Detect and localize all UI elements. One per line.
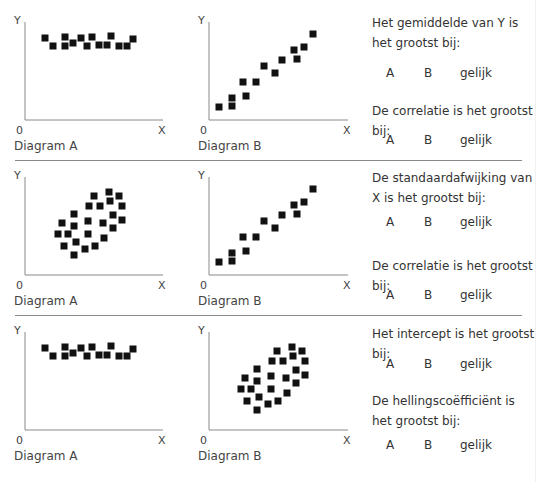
data-point-marker	[279, 212, 286, 219]
x-axis-label: X	[343, 279, 351, 292]
data-point-marker	[302, 372, 309, 379]
data-point-marker	[216, 259, 223, 266]
data-point-marker	[216, 104, 223, 111]
data-point-marker	[243, 93, 250, 100]
data-point-marker	[302, 358, 309, 365]
origin-label: 0	[200, 434, 207, 447]
answer-option-a[interactable]: A	[386, 215, 394, 229]
data-point-marker	[272, 225, 279, 232]
data-point-marker	[261, 63, 268, 70]
data-point-marker	[254, 378, 261, 385]
data-point-marker	[265, 401, 272, 408]
data-point-marker	[261, 218, 268, 225]
data-point-marker	[244, 398, 251, 405]
data-point-marker	[253, 234, 260, 241]
data-point-marker	[301, 44, 308, 51]
answer-options: ABgelijk	[372, 133, 538, 153]
answer-option-b[interactable]: B	[424, 133, 432, 147]
data-point-marker	[254, 407, 261, 414]
x-axis-label: X	[343, 124, 351, 137]
question-text: De standaardafwijking van X is het groot…	[372, 168, 538, 208]
exercise-row-2: Y0XDiagram AY0XDiagram BDe standaardafwi…	[0, 155, 538, 310]
data-point-marker	[243, 248, 250, 255]
answer-option-gelijk[interactable]: gelijk	[460, 66, 492, 80]
origin-label: 0	[200, 124, 207, 137]
data-point-marker	[240, 234, 247, 241]
data-point-marker	[274, 348, 281, 355]
data-point-marker	[301, 199, 308, 206]
answer-options: ABgelijk	[372, 66, 538, 86]
answer-options: ABgelijk	[372, 215, 538, 235]
data-point-marker	[238, 386, 245, 393]
y-axis-label: Y	[198, 169, 205, 182]
data-point-marker	[268, 386, 275, 393]
data-point-marker	[229, 95, 236, 102]
data-point-marker	[294, 211, 301, 218]
origin-label: 0	[200, 279, 207, 292]
answer-option-gelijk[interactable]: gelijk	[460, 357, 492, 371]
answer-option-a[interactable]: A	[386, 133, 394, 147]
answer-option-gelijk[interactable]: gelijk	[460, 438, 492, 452]
y-axis-label: Y	[198, 14, 205, 27]
data-point-marker	[299, 348, 306, 355]
answer-option-b[interactable]: B	[424, 66, 432, 80]
diagram-b-caption: Diagram B	[198, 294, 262, 308]
data-point-marker	[279, 57, 286, 64]
answer-options: ABgelijk	[372, 357, 538, 377]
data-point-marker	[283, 375, 290, 382]
data-point-marker	[293, 380, 300, 387]
y-axis-label: Y	[198, 324, 205, 337]
answer-option-a[interactable]: A	[386, 288, 394, 302]
data-point-marker	[248, 386, 255, 393]
answer-options: ABgelijk	[372, 438, 538, 458]
answer-option-gelijk[interactable]: gelijk	[460, 288, 492, 302]
data-point-marker	[254, 366, 261, 373]
data-point-marker	[291, 47, 298, 54]
data-point-marker	[268, 373, 275, 380]
diagram-b-caption: Diagram B	[198, 139, 262, 153]
data-point-marker	[284, 390, 291, 397]
answer-option-b[interactable]: B	[424, 357, 432, 371]
data-point-marker	[280, 358, 287, 365]
data-point-marker	[293, 367, 300, 374]
answer-option-gelijk[interactable]: gelijk	[460, 133, 492, 147]
answer-options: ABgelijk	[372, 288, 538, 308]
data-point-marker	[275, 398, 282, 405]
data-point-marker	[269, 358, 276, 365]
data-point-marker	[229, 250, 236, 257]
answer-option-b[interactable]: B	[424, 438, 432, 452]
data-point-marker	[229, 103, 236, 110]
data-point-marker	[294, 56, 301, 63]
exercise-row-3: Y0XDiagram AY0XDiagram BHet intercept is…	[0, 310, 538, 465]
data-point-marker	[253, 79, 260, 86]
data-point-marker	[310, 31, 317, 38]
data-point-marker	[256, 394, 263, 401]
diagram-b-caption: Diagram B	[198, 449, 262, 463]
question-text: Het gemiddelde van Y is het grootst bij:	[372, 13, 538, 53]
data-point-marker	[272, 70, 279, 77]
answer-option-a[interactable]: A	[386, 438, 394, 452]
data-point-marker	[240, 79, 247, 86]
x-axis-label: X	[343, 434, 351, 447]
answer-option-a[interactable]: A	[386, 357, 394, 371]
data-point-marker	[291, 202, 298, 209]
question-text: De hellingscoëfficiënt is het grootst bi…	[372, 391, 538, 431]
answer-option-gelijk[interactable]: gelijk	[460, 215, 492, 229]
data-point-marker	[289, 344, 296, 351]
exercise-row-1: Y0XDiagram AY0XDiagram BHet gemiddelde v…	[0, 0, 538, 155]
data-point-marker	[229, 258, 236, 265]
data-point-marker	[310, 186, 317, 193]
answer-option-a[interactable]: A	[386, 66, 394, 80]
answer-option-b[interactable]: B	[424, 215, 432, 229]
data-point-marker	[242, 375, 249, 382]
data-point-marker	[290, 353, 297, 360]
answer-option-b[interactable]: B	[424, 288, 432, 302]
